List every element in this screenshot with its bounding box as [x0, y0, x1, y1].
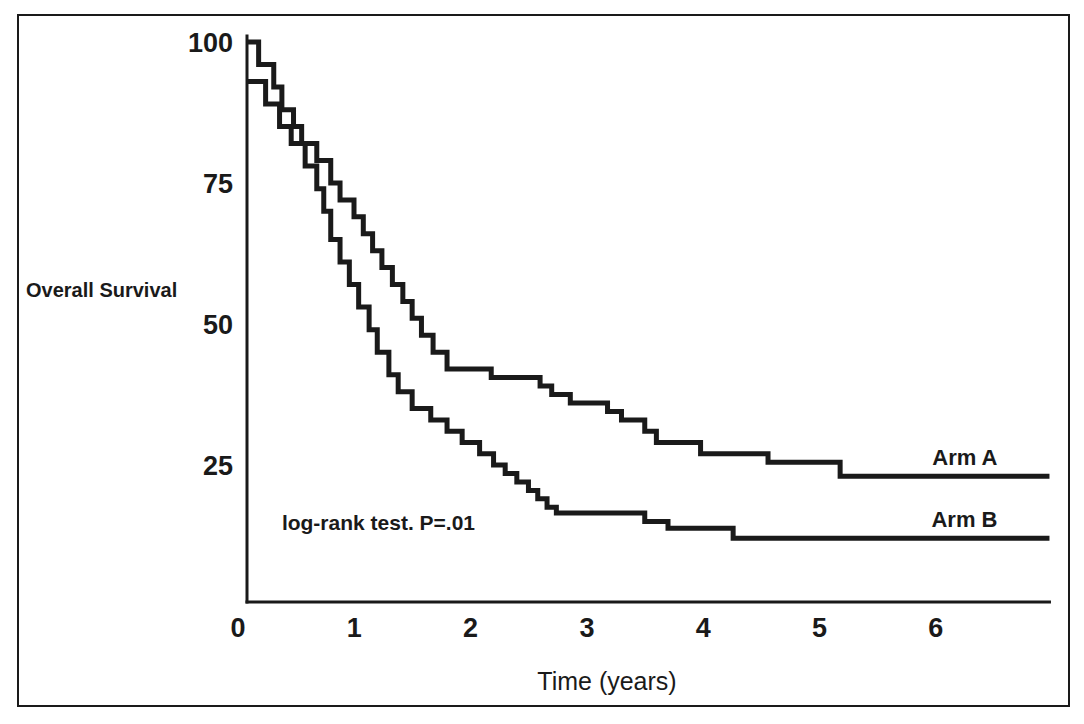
series-labels: Arm AArm B	[931, 445, 997, 532]
x-axis-tick-labels: 0123456	[230, 613, 943, 643]
y-tick-100: 100	[188, 28, 233, 58]
chart-annotations: log-rank test. P=.01	[282, 511, 475, 534]
x-tick-4: 4	[696, 613, 711, 643]
y-axis-tick-labels: 255075100	[188, 28, 233, 481]
curve-arm-a	[247, 42, 1049, 476]
x-tick-0: 0	[230, 613, 245, 643]
y-tick-75: 75	[203, 169, 233, 199]
x-tick-6: 6	[928, 613, 943, 643]
curve-arm-b	[247, 81, 1049, 538]
x-tick-5: 5	[812, 613, 827, 643]
x-tick-2: 2	[463, 613, 478, 643]
y-tick-25: 25	[203, 451, 233, 481]
y-axis-title: Overall Survival	[26, 279, 177, 301]
survival-chart: 255075100 0123456 Arm AArm B log-rank te…	[0, 0, 1084, 724]
series-label-arm-b: Arm B	[931, 507, 997, 532]
x-tick-3: 3	[579, 613, 594, 643]
survival-curves	[247, 42, 1049, 538]
x-axis-title: Time (years)	[537, 667, 676, 695]
y-tick-50: 50	[203, 310, 233, 340]
x-tick-1: 1	[347, 613, 362, 643]
log-rank-annotation: log-rank test. P=.01	[282, 511, 475, 534]
series-label-arm-a: Arm A	[932, 445, 997, 470]
